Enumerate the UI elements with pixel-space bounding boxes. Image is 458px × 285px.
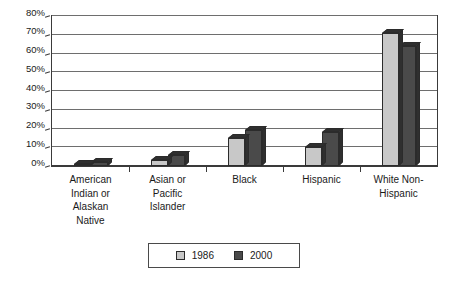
y-tick-mark [45,128,50,130]
x-label-line: White Non- [360,173,437,187]
y-tick-mark [45,72,50,74]
legend-item-2000[interactable]: 2000 [234,251,272,261]
bar-face [74,164,91,166]
y-tick-label: 60% [4,45,45,55]
bar-side-face [416,42,420,166]
y-tick-mark [45,109,50,111]
x-tick-mark [129,167,130,172]
legend-label: 1986 [192,251,214,261]
y-tick-mark [45,147,50,149]
x-tick-label-4: White Non-Hispanic [360,173,437,200]
x-label-line: Hispanic [283,173,360,187]
x-label-line: Indian or [52,187,129,201]
bar-side-face [339,128,343,166]
y-tick-mark [45,15,50,17]
y-tick-label: 80% [4,8,45,18]
bar-face [305,147,322,166]
x-label-line: Asian or [129,173,206,187]
bar-1986-3 [305,147,322,166]
x-label-line: Pacific [129,187,206,201]
y-tick-label: 50% [4,64,45,74]
legend-label: 2000 [250,251,272,261]
y-tick-label: 30% [4,101,45,111]
y-tick-label: 70% [4,26,45,36]
bar-group [151,16,185,166]
legend-item-1986[interactable]: 1986 [176,251,214,261]
bar-group [228,16,262,166]
legend-swatch-icon [176,251,185,260]
legend-swatch-icon [234,251,243,260]
x-label-line: Alaskan [52,200,129,214]
x-tick-mark [283,167,284,172]
bar-side-face [262,126,266,166]
bar-1986-0 [74,164,91,166]
y-tick-label: 10% [4,139,45,149]
y-tick-mark [45,165,50,167]
bar-chart: 0%10%20%30%40%50%60%70%80% AmericanIndia… [0,0,458,285]
bar-1986-4 [382,33,399,166]
x-label-line: Black [206,173,283,187]
x-tick-label-1: Asian orPacificIslander [129,173,206,214]
x-tick-label-2: Black [206,173,283,187]
y-tick-label: 40% [4,83,45,93]
bar-group [305,16,339,166]
y-tick-label: 0% [4,158,45,168]
bar-side-face [245,134,249,166]
bar-face [151,160,168,166]
bar-group [382,16,416,166]
bar-face [382,33,399,166]
x-label-line: American [52,173,129,187]
bars-layer [52,16,437,166]
y-tick-mark [45,34,50,36]
y-tick-mark [45,90,50,92]
x-tick-label-0: AmericanIndian orAlaskanNative [52,173,129,227]
x-label-line: Islander [129,200,206,214]
bar-group [74,16,108,166]
bar-1986-2 [228,138,245,166]
x-tick-mark [360,167,361,172]
x-tick-label-3: Hispanic [283,173,360,187]
y-tick-label: 20% [4,120,45,130]
bar-1986-1 [151,160,168,166]
bar-face [228,138,245,166]
x-tick-mark [206,167,207,172]
y-tick-mark [45,53,50,55]
chart-legend: 19862000 [148,243,300,268]
x-label-line: Native [52,214,129,228]
bar-side-face [399,29,403,166]
x-label-line: Hispanic [360,187,437,201]
